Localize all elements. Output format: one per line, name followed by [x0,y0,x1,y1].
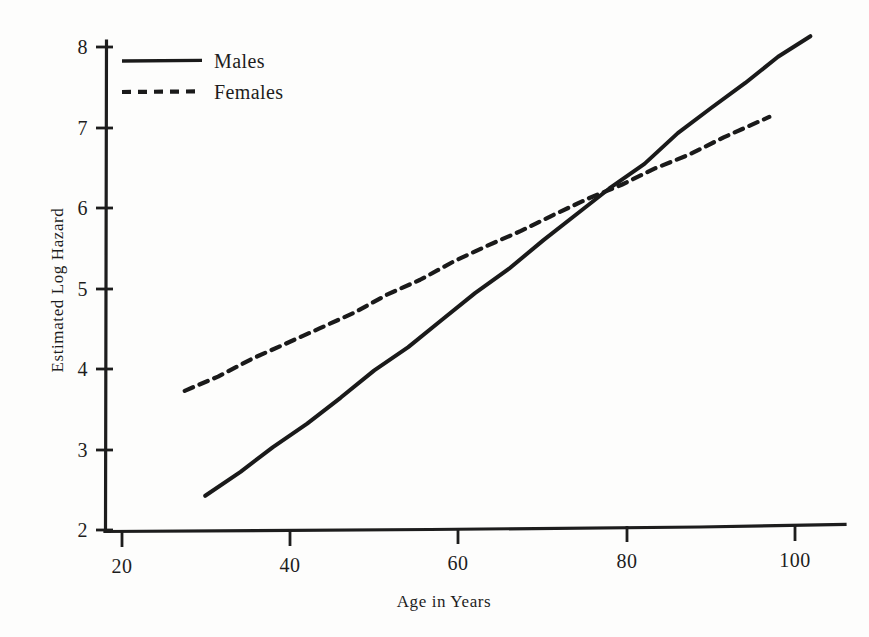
legend-label-females: Females [214,81,283,104]
x-tick-label-100: 100 [779,549,811,572]
data-series-group [185,36,811,496]
legend-label-males: Males [214,50,265,73]
legend-line-samples [122,60,202,92]
legend-sample-males [122,60,202,61]
y-tick-label-6: 6 [78,197,89,220]
x-tick-label-20: 20 [112,555,133,578]
chart-canvas [0,0,869,637]
y-tick-label-3: 3 [78,439,89,462]
figure-container: 8 7 6 5 4 3 2 20 40 60 80 100 Age in Yea… [0,0,869,637]
x-tick-label-80: 80 [617,550,638,573]
series-line-males [205,36,810,496]
x-axis-title: Age in Years [397,592,492,612]
y-tick-label-7: 7 [78,117,89,140]
x-tick-label-40: 40 [280,554,301,577]
y-tick-label-5: 5 [78,278,89,301]
axis-lines [105,41,845,532]
y-axis-title: Estimated Log Hazard [48,208,68,373]
series-line-females [185,117,770,391]
legend-sample-females [122,91,202,92]
x-tick-label-60: 60 [448,552,469,575]
x-axis-line [105,525,845,532]
y-tick-label-4: 4 [78,358,89,381]
y-axis-line [106,41,107,531]
y-tick-label-8: 8 [78,36,89,59]
y-tick-label-2: 2 [78,519,89,542]
